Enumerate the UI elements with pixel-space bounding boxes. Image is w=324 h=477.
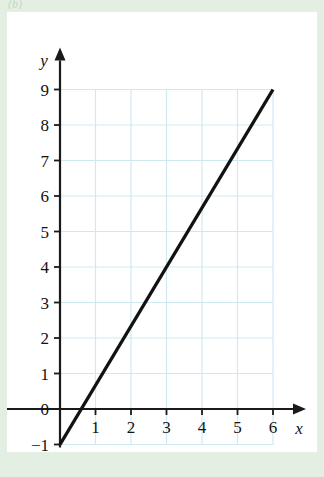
x-tick-label: 6 — [269, 418, 278, 437]
y-tick-label: 6 — [41, 187, 50, 206]
x-tick-label: 5 — [233, 418, 242, 437]
y-tick-label: 0 — [41, 400, 50, 419]
x-axis-label: x — [294, 419, 303, 438]
cropped-label-fragment: (b) — [8, 0, 52, 9]
x-tick-label: 4 — [198, 418, 207, 437]
y-tick-label: −1 — [31, 436, 49, 453]
y-tick-label: 8 — [41, 116, 50, 135]
y-tick-label: 1 — [41, 365, 50, 384]
x-axis-arrowhead — [293, 404, 306, 415]
y-tick-label: 2 — [41, 329, 50, 348]
figure-page: (b) −10123456789123456 y x — [0, 0, 324, 477]
line-chart: −10123456789123456 y x — [7, 12, 317, 452]
x-tick-label: 3 — [162, 418, 171, 437]
y-tick-label: 3 — [41, 294, 50, 313]
chart-panel: −10123456789123456 y x — [7, 12, 317, 452]
y-tick-label: 9 — [41, 81, 50, 100]
y-axis-label: y — [38, 51, 48, 70]
x-tick-label: 2 — [127, 418, 136, 437]
tick-labels-group: −10123456789123456 — [31, 81, 277, 453]
y-tick-label: 7 — [41, 152, 50, 171]
y-tick-label: 4 — [41, 258, 50, 277]
x-tick-label: 1 — [91, 418, 100, 437]
y-tick-label: 5 — [41, 223, 50, 242]
y-axis-arrowhead — [55, 48, 66, 61]
